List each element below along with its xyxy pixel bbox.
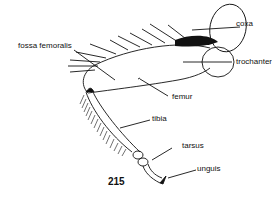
label-tarsus: tarsus [182, 142, 204, 150]
label-fossa-femoralis: fossa femoralis [18, 42, 72, 50]
label-trochanter: trochanter [236, 58, 272, 66]
label-unguis: unguis [197, 165, 221, 173]
tibia-shape [86, 90, 140, 152]
figure-number: 215 [108, 177, 125, 187]
leg-illustration [0, 0, 272, 198]
label-coxa: coxa [236, 20, 253, 28]
leg-diagram: coxa trochanter fossa femoralis femur ti… [0, 0, 272, 198]
coxa-joint [175, 36, 218, 47]
label-tibia: tibia [152, 115, 167, 123]
label-femur: femur [172, 93, 192, 101]
femur-shape [83, 45, 210, 93]
tarsus-shape [143, 164, 162, 183]
